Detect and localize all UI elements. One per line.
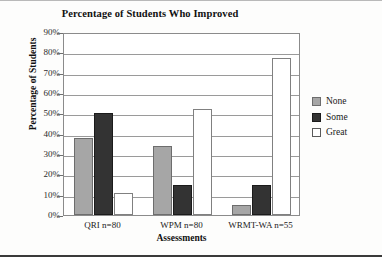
y-tick-label: 0%	[14, 211, 60, 220]
bar	[173, 185, 192, 216]
x-tick-label: QRI n=80	[63, 220, 142, 230]
bar	[232, 205, 251, 215]
legend-label: Some	[326, 113, 348, 123]
y-tick-label: 10%	[14, 191, 60, 200]
y-tick-label: 20%	[14, 170, 60, 179]
y-tick-label: 40%	[14, 130, 60, 139]
x-tick-label: WRMT-WA n=55	[221, 220, 300, 230]
bar	[252, 185, 271, 216]
legend-swatch-icon	[312, 97, 321, 106]
bar	[94, 113, 113, 215]
bar	[193, 109, 212, 215]
y-tick-label: 90%	[14, 28, 60, 37]
y-tick-mark	[57, 216, 63, 217]
x-tick-label: WPM n=80	[142, 220, 221, 230]
chart-legend: NoneSomeGreat	[312, 97, 348, 144]
bar	[272, 58, 291, 215]
legend-label: Great	[326, 128, 347, 138]
y-tick-label: 70%	[14, 69, 60, 78]
legend-swatch-icon	[312, 128, 321, 137]
y-tick-label: 30%	[14, 150, 60, 159]
y-tick-label: 80%	[14, 48, 60, 57]
legend-item-none: None	[312, 97, 348, 107]
plot-area	[63, 33, 300, 216]
legend-label: None	[326, 97, 347, 107]
legend-item-some: Some	[312, 113, 348, 123]
x-axis-title: Assessments	[63, 233, 300, 243]
bar	[74, 138, 93, 215]
bar	[153, 146, 172, 215]
gridline	[64, 95, 299, 96]
y-tick-label: 60%	[14, 89, 60, 98]
legend-item-great: Great	[312, 128, 348, 138]
chart-figure: Percentage of Students Who Improved Perc…	[0, 0, 382, 257]
gridline	[64, 54, 299, 55]
y-tick-label: 50%	[14, 109, 60, 118]
gridline	[64, 75, 299, 76]
legend-swatch-icon	[312, 113, 321, 122]
bar	[114, 193, 133, 215]
chart-title: Percentage of Students Who Improved	[0, 8, 300, 19]
